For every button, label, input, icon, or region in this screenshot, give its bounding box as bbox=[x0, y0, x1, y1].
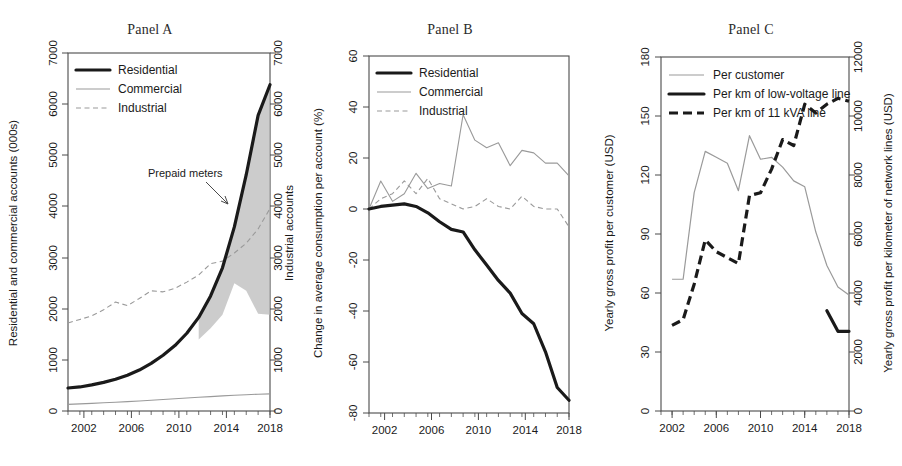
panel-a-xtick-2006: 2006 bbox=[119, 422, 145, 434]
panel-a-series-commercial bbox=[68, 394, 270, 404]
panel-a-y2tick-4000: 4000 bbox=[272, 193, 284, 219]
panel-a-ytick-3000: 3000 bbox=[47, 245, 59, 271]
panel-a-y2tick-3000: 3000 bbox=[272, 245, 284, 271]
panel-a-ytick-0: 0 bbox=[47, 408, 59, 414]
panel-a-annotation-prepaid-meters: Prepaid meters bbox=[148, 167, 223, 179]
panel-c-y2tick-6000: 6000 bbox=[852, 221, 864, 247]
panel-b-x-axis: 2002 2006 2010 2014 2018 bbox=[369, 413, 582, 436]
panel-c-legend: Per customer Per km of low-voltage line … bbox=[669, 68, 851, 120]
panel-c-legend-label-11kva: Per km of 11 kVA line bbox=[713, 106, 826, 120]
panel-c-y2tick-4000: 4000 bbox=[852, 280, 864, 306]
panel-c-ytick-120: 120 bbox=[639, 165, 651, 184]
panel-a-xtick-2002: 2002 bbox=[71, 422, 97, 434]
panel-c-xtick-2014: 2014 bbox=[792, 422, 818, 434]
panel-a-ytick-5000: 5000 bbox=[47, 142, 59, 168]
panel-b-ytick-60: 60 bbox=[347, 50, 359, 63]
panel-b-plot: Change in average consumption per accoun… bbox=[300, 0, 600, 466]
panel-c-y2tick-10000: 10000 bbox=[852, 100, 864, 132]
panel-a-legend: Residential Commercial Industrial bbox=[76, 63, 182, 115]
panel-c-xtick-2002: 2002 bbox=[659, 422, 685, 434]
panel-b-series-commercial bbox=[369, 115, 569, 209]
panel-a-ytick-4000: 4000 bbox=[47, 193, 59, 219]
panel-c-plot: Yearly gross profit per customer (USD) Y… bbox=[600, 0, 902, 466]
panel-c-y2tick-8000: 8000 bbox=[852, 162, 864, 188]
panel-a-ytick-1000: 1000 bbox=[47, 347, 59, 373]
panel-b-ytick-neg80: -80 bbox=[347, 405, 359, 422]
panel-c-y2-axis-label: Yearly gross profit per kilometer of net… bbox=[882, 93, 894, 373]
three-panel-figure: Panel A Residential and commercial accou… bbox=[0, 0, 902, 466]
panel-c-xtick-2010: 2010 bbox=[748, 422, 774, 434]
panel-b-left-axis: 60 40 20 0 -20 -40 -60 -80 bbox=[347, 50, 369, 422]
panel-b-legend-label-commercial: Commercial bbox=[419, 85, 483, 99]
panel-b-xtick-2006: 2006 bbox=[419, 424, 445, 436]
panel-b-series-group bbox=[369, 115, 569, 401]
panel-a: Panel A Residential and commercial accou… bbox=[0, 0, 300, 466]
panel-a-y2tick-5000: 5000 bbox=[272, 142, 284, 168]
panel-b-ytick-neg20: -20 bbox=[347, 252, 359, 269]
panel-b: Panel B Change in average consumption pe… bbox=[300, 0, 600, 466]
panel-c-ytick-0: 0 bbox=[639, 408, 651, 414]
panel-a-y2tick-6000: 6000 bbox=[272, 91, 284, 117]
panel-b-ytick-0: 0 bbox=[347, 206, 359, 212]
panel-a-annotation-arrow bbox=[206, 182, 228, 204]
panel-b-ytick-20: 20 bbox=[347, 152, 359, 165]
panel-c-right-axis: 12000 10000 8000 6000 4000 2000 0 bbox=[849, 41, 864, 414]
panel-a-legend-label-residential: Residential bbox=[118, 63, 177, 77]
panel-a-xtick-2018: 2018 bbox=[257, 422, 283, 434]
panel-c-series-per-km-11kva bbox=[672, 98, 849, 325]
panel-a-right-axis: 7000 6000 5000 4000 3000 2000 1000 0 bbox=[270, 40, 284, 414]
panel-a-y2tick-1000: 1000 bbox=[272, 347, 284, 373]
panel-a-legend-label-industrial: Industrial bbox=[118, 101, 167, 115]
panel-c-legend-label-low-voltage: Per km of low-voltage line bbox=[713, 87, 851, 101]
panel-c-y2tick-12000: 12000 bbox=[852, 41, 864, 73]
panel-b-ytick-neg60: -60 bbox=[347, 354, 359, 371]
panel-a-ytick-6000: 6000 bbox=[47, 91, 59, 117]
panel-a-y2tick-7000: 7000 bbox=[272, 40, 284, 66]
panel-b-xtick-2018: 2018 bbox=[556, 424, 582, 436]
panel-c-legend-label-per-customer: Per customer bbox=[713, 68, 784, 82]
panel-b-xtick-2014: 2014 bbox=[513, 424, 539, 436]
panel-c-ytick-30: 30 bbox=[639, 346, 651, 359]
panel-c-ytick-150: 150 bbox=[639, 106, 651, 125]
panel-b-xtick-2002: 2002 bbox=[372, 424, 398, 436]
panel-b-legend-label-residential: Residential bbox=[419, 66, 478, 80]
panel-c-x-axis: 2002 2006 2010 2014 2018 bbox=[659, 411, 861, 434]
panel-b-y-axis-label: Change in average consumption per accoun… bbox=[312, 108, 324, 358]
panel-a-legend-label-commercial: Commercial bbox=[118, 82, 182, 96]
panel-c-y-axis-label: Yearly gross profit per customer (USD) bbox=[603, 134, 615, 331]
panel-a-y-axis-label: Residential and commercial accounts (000… bbox=[7, 120, 19, 346]
panel-a-y2-axis-label: Industrial accounts bbox=[283, 185, 295, 281]
panel-c-ytick-60: 60 bbox=[639, 287, 651, 300]
panel-c-left-axis: 180 150 120 90 60 30 0 bbox=[639, 47, 661, 414]
panel-c-ytick-90: 90 bbox=[639, 228, 651, 241]
panel-b-ytick-neg40: -40 bbox=[347, 303, 359, 320]
panel-a-y2tick-0: 0 bbox=[272, 408, 284, 414]
panel-b-legend-label-industrial: Industrial bbox=[419, 104, 468, 118]
panel-a-xtick-2010: 2010 bbox=[166, 422, 192, 434]
panel-c-y2tick-2000: 2000 bbox=[852, 339, 864, 365]
panel-a-y2tick-2000: 2000 bbox=[272, 296, 284, 322]
panel-a-xtick-2014: 2014 bbox=[214, 422, 240, 434]
panel-c-y2tick-0: 0 bbox=[852, 408, 864, 414]
panel-b-series-industrial bbox=[369, 178, 569, 226]
panel-a-ytick-2000: 2000 bbox=[47, 296, 59, 322]
panel-a-left-axis: 7000 6000 5000 4000 3000 2000 1000 0 bbox=[47, 40, 68, 414]
panel-c-xtick-2006: 2006 bbox=[704, 422, 730, 434]
panel-a-plot: Residential and commercial accounts (000… bbox=[0, 0, 300, 466]
panel-b-ytick-40: 40 bbox=[347, 101, 359, 114]
panel-c-xtick-2018: 2018 bbox=[836, 422, 862, 434]
panel-b-xtick-2010: 2010 bbox=[466, 424, 492, 436]
panel-a-ytick-7000: 7000 bbox=[47, 40, 59, 66]
panel-b-series-residential bbox=[369, 204, 569, 400]
panel-b-legend: Residential Commercial Industrial bbox=[377, 66, 483, 118]
panel-a-series-group bbox=[68, 85, 270, 405]
panel-c: Panel C Yearly gross profit per customer… bbox=[600, 0, 902, 466]
panel-c-series-group bbox=[672, 98, 849, 331]
panel-c-series-per-km-low-voltage bbox=[827, 311, 849, 332]
panel-a-x-axis: 2002 2006 2010 2014 2018 bbox=[68, 411, 283, 434]
panel-b-frame bbox=[369, 56, 569, 413]
panel-c-ytick-180: 180 bbox=[639, 47, 651, 66]
